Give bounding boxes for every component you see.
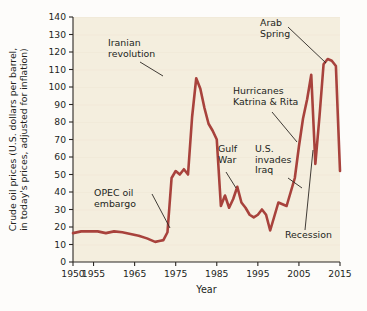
y-axis-tick-label: 140	[48, 11, 66, 22]
x-axis-title: Year	[195, 284, 216, 295]
annotation-line: embargo	[94, 198, 136, 209]
annotation-line: Iranian	[108, 37, 141, 48]
plot-texture-band	[73, 105, 340, 106]
y-axis-tick-labels: 0102030405060708090100110120130140	[48, 11, 66, 267]
y-axis-tick-label: 110	[48, 64, 66, 75]
y-axis-tick-label: 10	[54, 239, 66, 250]
annotation-line: Iraq	[255, 164, 273, 175]
plot-texture-band	[73, 70, 340, 71]
y-axis-tick-label: 20	[54, 221, 66, 232]
annotation-line: Katrina & Rita	[233, 96, 298, 107]
plot-texture-band	[73, 17, 340, 18]
y-axis-title-line: in today's prices, adjusted for inflatio…	[18, 48, 29, 230]
y-axis-tick-label: 120	[48, 46, 66, 57]
y-axis-tick-label: 100	[48, 81, 66, 92]
y-axis-tick-label: 50	[54, 169, 66, 180]
x-axis-tick-label: 1975	[164, 268, 188, 279]
y-axis-tick-label: 70	[54, 134, 66, 145]
annotation-line: Hurricanes	[233, 85, 284, 96]
x-axis-tick-label: 1985	[205, 268, 229, 279]
x-axis	[73, 262, 340, 266]
annotation-line: Spring	[260, 28, 290, 39]
plot-texture-band	[73, 35, 340, 36]
plot-texture-band	[73, 87, 340, 88]
plot-texture-band	[73, 122, 340, 123]
plot-texture-band	[73, 210, 340, 211]
y-axis-tick-label: 130	[48, 29, 66, 40]
annotation-label-recession: Recession	[285, 229, 332, 240]
x-axis-tick-label: 1965	[123, 268, 147, 279]
annotation-line: Arab	[260, 17, 282, 28]
x-axis-tick-label: 1995	[246, 268, 270, 279]
plot-texture-band	[73, 157, 340, 158]
annotation-line: War	[218, 154, 236, 165]
crude-oil-price-chart: 0102030405060708090100110120130140 19501…	[0, 0, 367, 311]
annotation-line: Recession	[285, 229, 332, 240]
plot-texture-band	[73, 245, 340, 246]
annotation-line: U.S.	[255, 143, 274, 154]
y-axis-tick-label: 90	[54, 99, 66, 110]
annotation-line: revolution	[108, 48, 155, 59]
y-axis-tick-label: 30	[54, 204, 66, 215]
x-axis-tick-label: 2015	[328, 268, 352, 279]
annotation-label-gulf-war: GulfWar	[218, 143, 238, 165]
plot-texture-band	[73, 227, 340, 228]
y-axis-tick-label: 40	[54, 186, 66, 197]
y-axis-title-line: Crude oil prices (U.S. dollars per barre…	[7, 48, 18, 231]
annotation-label-opec-oil-embargo: OPEC oilembargo	[94, 187, 136, 209]
annotation-line: Gulf	[218, 143, 238, 154]
y-axis-title: Crude oil prices (U.S. dollars per barre…	[7, 48, 29, 231]
x-axis-tick-label: 2005	[287, 268, 311, 279]
y-axis-tick-label: 60	[54, 151, 66, 162]
y-axis-tick-label: 80	[54, 116, 66, 127]
x-axis-tick-label: 1955	[82, 268, 106, 279]
annotation-line: invades	[255, 154, 292, 165]
chart-canvas: 0102030405060708090100110120130140 19501…	[0, 0, 367, 311]
y-axis-tick-label: 0	[60, 256, 66, 267]
x-axis-tick-labels: 19501955196519751985199520052015	[61, 268, 352, 279]
y-axis	[69, 17, 73, 262]
plot-texture-band	[73, 175, 340, 176]
annotation-line: OPEC oil	[94, 187, 133, 198]
